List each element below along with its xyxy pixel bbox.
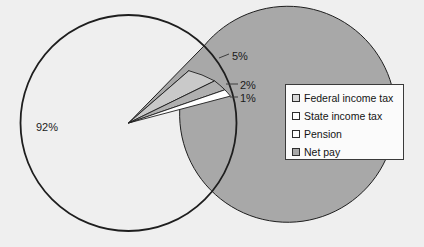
pie-label-pension: 1% xyxy=(240,92,256,104)
pie-label-federal: 5% xyxy=(232,50,248,62)
legend-label: State income tax xyxy=(304,111,382,122)
pie-label-net-pay: 92% xyxy=(36,121,58,133)
legend-item-state-income-tax[interactable]: State income tax xyxy=(292,108,403,124)
legend-item-pension[interactable]: Pension xyxy=(292,126,403,142)
chart-legend: Federal income tax State income tax Pens… xyxy=(285,84,404,160)
legend-swatch-icon xyxy=(292,148,300,156)
legend-item-federal-income-tax[interactable]: Federal income tax xyxy=(292,90,403,106)
legend-label: Pension xyxy=(304,129,342,140)
legend-swatch-icon xyxy=(292,112,300,120)
legend-swatch-icon xyxy=(292,130,300,138)
chart-canvas: 92% 5% 2% 1% Federal income tax State in… xyxy=(0,0,424,247)
legend-item-net-pay[interactable]: Net pay xyxy=(292,144,403,160)
legend-swatch-icon xyxy=(292,94,300,102)
legend-label: Net pay xyxy=(304,147,340,158)
pie-label-state: 2% xyxy=(240,79,256,91)
legend-label: Federal income tax xyxy=(304,93,393,104)
